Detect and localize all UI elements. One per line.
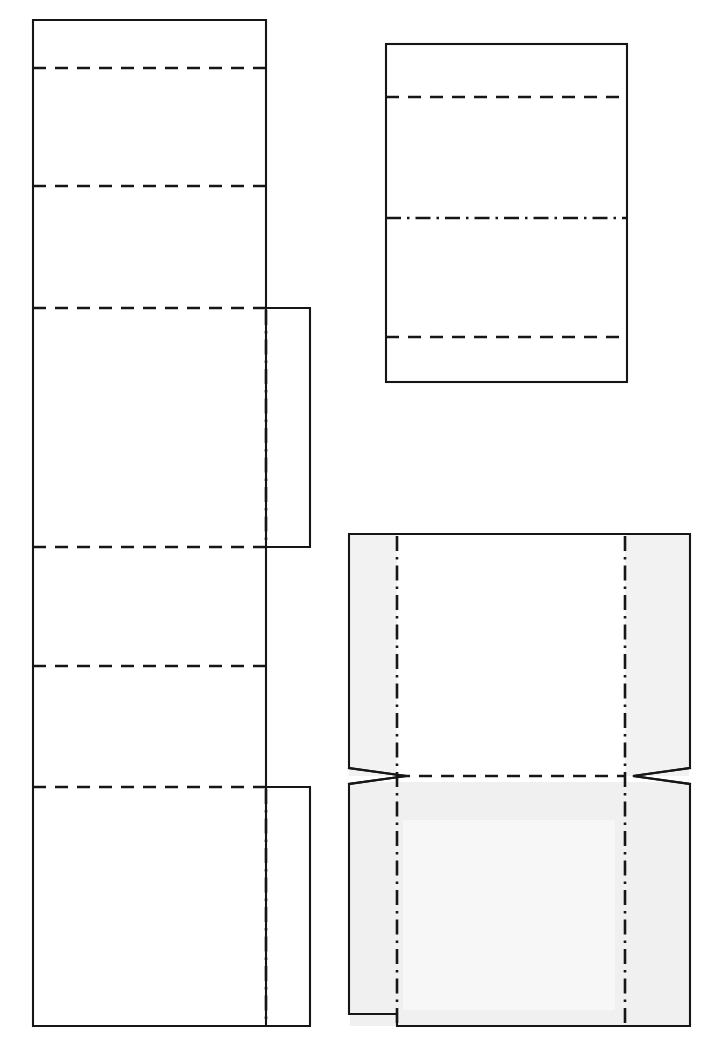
dieline-sheet: Packaging dieline layout Cut line Fold /… bbox=[0, 0, 706, 1053]
dieline-drawing bbox=[0, 0, 706, 1053]
tray-upper-left-side-panel-fill bbox=[349, 535, 397, 776]
tray-lower-inner-tint bbox=[403, 820, 615, 1010]
tray-upper-right-side-panel-fill bbox=[625, 535, 689, 776]
